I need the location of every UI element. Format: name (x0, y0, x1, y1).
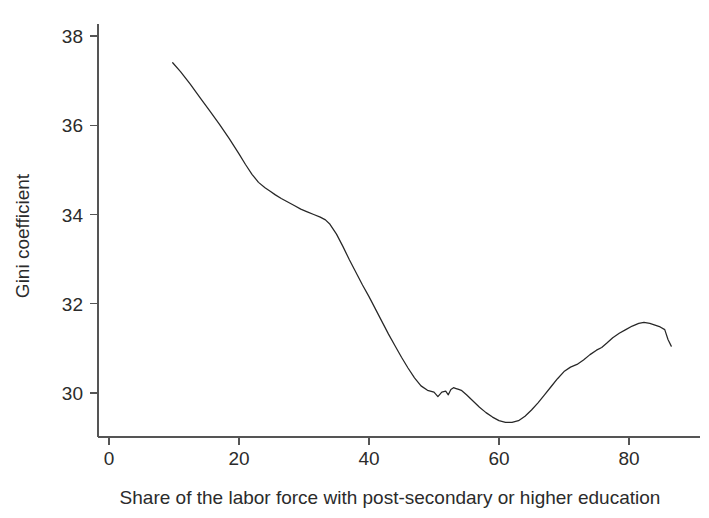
y-tick-label: 36 (62, 115, 83, 136)
x-tick-label: 60 (488, 448, 509, 469)
y-tick-label: 34 (62, 205, 84, 226)
x-tick-label: 40 (358, 448, 379, 469)
x-tick-label: 0 (104, 448, 115, 469)
x-axis-title: Share of the labor force with post-secon… (120, 487, 661, 508)
y-tick-label: 38 (62, 26, 83, 47)
x-tick-label: 80 (618, 448, 639, 469)
x-tick-label: 20 (228, 448, 249, 469)
y-axis-title: Gini coefficient (12, 173, 33, 298)
x-axis-ticks: 020406080 (104, 437, 640, 469)
y-tick-label: 32 (62, 294, 83, 315)
chart-figure: 3032343638 020406080 Gini coefficient Sh… (0, 0, 709, 518)
y-axis-ticks: 3032343638 (62, 26, 98, 404)
line-chart-svg: 3032343638 020406080 Gini coefficient Sh… (0, 0, 709, 518)
y-tick-label: 30 (62, 383, 83, 404)
data-line-gini (173, 63, 672, 423)
data-series-group (173, 63, 672, 423)
